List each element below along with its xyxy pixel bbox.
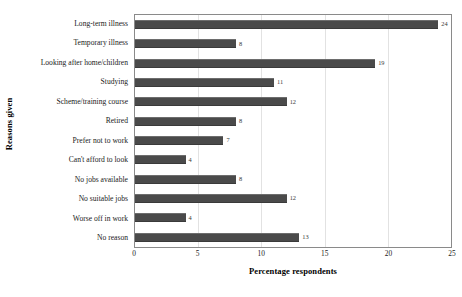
x-axis-tick: 25 — [448, 250, 455, 257]
bar — [135, 117, 236, 126]
category-label-text: No jobs available — [75, 176, 128, 184]
category-label-text: No reason — [97, 234, 128, 242]
bar-row: 4 — [135, 150, 451, 169]
y-axis-category-labels: Long-term illnessTemporary illnessLookin… — [16, 14, 132, 248]
category-label: No reason — [16, 229, 132, 249]
category-label-text: Looking after home/children — [41, 59, 128, 67]
bar-value-label: 19 — [378, 60, 384, 66]
bar — [135, 175, 236, 184]
bar-value-label: 4 — [189, 157, 192, 163]
bars-layer: 248191112874812413 — [135, 15, 451, 247]
category-label-text: Worse off in work — [73, 215, 128, 223]
category-label-text: No suitable jobs — [79, 195, 128, 203]
x-axis-tick: 10 — [257, 250, 264, 257]
bar-value-label: 12 — [290, 195, 296, 201]
bar-row: 4 — [135, 208, 451, 227]
bar — [135, 20, 438, 29]
bar — [135, 39, 236, 48]
category-label: Prefer not to work — [16, 131, 132, 151]
bar — [135, 194, 287, 203]
bar — [135, 213, 186, 222]
bar-value-label: 4 — [189, 215, 192, 221]
bar-row: 8 — [135, 112, 451, 131]
category-label: Can't afford to look — [16, 151, 132, 171]
bar-value-label: 13 — [302, 234, 308, 240]
plot-area: 248191112874812413 — [134, 14, 452, 248]
category-label: Studying — [16, 73, 132, 93]
bar-value-label: 8 — [239, 118, 242, 124]
category-label: No jobs available — [16, 170, 132, 190]
x-axis-tick-labels: 0510152025 — [134, 250, 452, 262]
bar-value-label: 8 — [239, 41, 242, 47]
category-label-text: Prefer not to work — [73, 137, 128, 145]
x-axis-tick: 0 — [132, 250, 136, 257]
category-label-text: Can't afford to look — [69, 156, 128, 164]
bar-row: 24 — [135, 15, 451, 34]
bar-row: 7 — [135, 131, 451, 150]
bar — [135, 97, 287, 106]
y-axis-title: Reasons given — [2, 0, 16, 248]
category-label: Scheme/training course — [16, 92, 132, 112]
bar-value-label: 12 — [290, 99, 296, 105]
category-label: Temporary illness — [16, 34, 132, 54]
x-axis-title: Percentage respondents — [134, 266, 452, 276]
category-label: Retired — [16, 112, 132, 132]
bar — [135, 59, 375, 68]
bar-row: 8 — [135, 34, 451, 53]
bar-row: 12 — [135, 189, 451, 208]
category-label-text: Studying — [101, 78, 128, 86]
bar-value-label: 11 — [277, 79, 283, 85]
bar — [135, 233, 299, 242]
bar-row: 13 — [135, 228, 451, 247]
category-label: Long-term illness — [16, 14, 132, 34]
bar — [135, 78, 274, 87]
bar-row: 19 — [135, 54, 451, 73]
bar-row: 12 — [135, 92, 451, 111]
y-axis-title-text: Reasons given — [4, 98, 14, 151]
bar — [135, 136, 223, 145]
category-label: Looking after home/children — [16, 53, 132, 73]
bar — [135, 155, 186, 164]
category-label: No suitable jobs — [16, 190, 132, 210]
bar-value-label: 8 — [239, 176, 242, 182]
category-label-text: Temporary illness — [73, 39, 128, 47]
bar-value-label: 7 — [226, 137, 229, 143]
category-label-text: Scheme/training course — [57, 98, 128, 106]
x-axis-tick: 20 — [385, 250, 392, 257]
bar-value-label: 24 — [441, 21, 447, 27]
bar-row: 8 — [135, 170, 451, 189]
category-label: Worse off in work — [16, 209, 132, 229]
bar-row: 11 — [135, 73, 451, 92]
x-axis-tick: 15 — [321, 250, 328, 257]
x-axis-tick: 5 — [196, 250, 200, 257]
category-label-text: Retired — [106, 117, 128, 125]
bar-chart: Reasons given Long-term illnessTemporary… — [0, 0, 462, 297]
category-label-text: Long-term illness — [74, 20, 128, 28]
